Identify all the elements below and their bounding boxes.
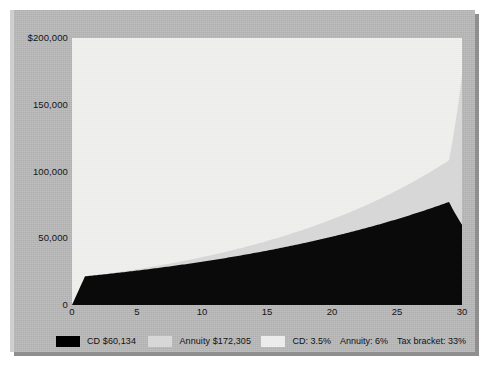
legend-label-annuity: Annuity $172,305 <box>179 336 251 346</box>
legend-swatch-annuity-icon <box>148 336 172 347</box>
legend-label-cd: CD $60,134 <box>87 336 136 346</box>
chart-legend: CD $60,134 Annuity $172,305 CD: 3.5% Ann… <box>56 333 466 349</box>
area-chart-svg <box>72 38 462 305</box>
x-axis-label-15: 15 <box>262 306 273 317</box>
legend-swatch-cd-icon <box>56 336 80 347</box>
legend-item-cd: CD $60,134 <box>56 336 136 347</box>
cd-area-series <box>72 202 462 305</box>
y-axis-label-200000: $200,000 <box>6 32 68 43</box>
x-axis-label-5: 5 <box>134 306 139 317</box>
x-axis-label-25: 25 <box>392 306 403 317</box>
plot-area <box>72 38 462 305</box>
chart-screenshot: $200,000 150,000 100,000 50,000 0 0 5 10… <box>0 0 493 370</box>
y-axis: $200,000 150,000 100,000 50,000 0 <box>0 0 68 342</box>
x-axis-label-20: 20 <box>327 306 338 317</box>
legend-item-annuity: Annuity $172,305 <box>148 336 251 347</box>
assumption-cd-rate: CD: 3.5% <box>292 336 331 346</box>
legend-assumptions: CD: 3.5% Annuity: 6% Tax bracket: 33% <box>261 336 466 347</box>
y-axis-label-50000: 50,000 <box>6 232 68 243</box>
y-axis-label-100000: 100,000 <box>6 166 68 177</box>
x-axis-label-0: 0 <box>69 306 74 317</box>
y-axis-label-150000: 150,000 <box>6 99 68 110</box>
x-axis-label-10: 10 <box>197 306 208 317</box>
assumption-tax-bracket: Tax bracket: 33% <box>397 336 466 346</box>
assumption-annuity-rate: Annuity: 6% <box>340 336 388 346</box>
x-axis-label-30: 30 <box>457 306 468 317</box>
legend-swatch-assumptions-icon <box>261 336 285 347</box>
y-axis-label-0: 0 <box>6 299 68 310</box>
x-axis: 0 5 10 15 20 25 30 <box>72 306 462 324</box>
